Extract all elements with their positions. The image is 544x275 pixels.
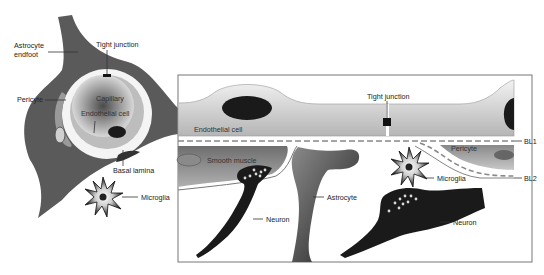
label-smooth-muscle: Smooth muscle — [207, 156, 257, 165]
label-tight-junction-left: Tight junction — [96, 40, 138, 49]
label-astrocyte-endfoot-2: endfoot — [14, 50, 38, 59]
label-tight-junction-right: Tight junction — [367, 92, 409, 101]
label-microglia-left: Microglia — [141, 193, 170, 202]
left-cross-section: Astrocyte endfoot Tight junction Pericyt… — [14, 15, 178, 218]
label-pericyte-right: Pericyte — [451, 144, 477, 153]
label-endothelial-right: Endothelial cell — [194, 125, 243, 134]
label-endothelial-left: Endothelial cell — [81, 109, 130, 118]
label-astrocyte-right: Astrocyte — [327, 193, 357, 202]
bbb-diagram: Astrocyte endfoot Tight junction Pericyt… — [0, 0, 544, 275]
microglia-left — [85, 177, 123, 217]
right-detail-panel: Tight junction Endothelial cell BL1 Smoo… — [177, 75, 537, 262]
label-basal-lamina: Basal lamina — [113, 166, 154, 175]
label-bl1: BL1 — [524, 137, 537, 146]
label-bl2: BL2 — [524, 174, 537, 183]
label-capillary: Capillary — [96, 94, 124, 103]
label-pericyte-left: Pericyte — [17, 95, 43, 104]
tight-junction-marker-right — [383, 118, 391, 126]
label-neuron-left: Neuron — [266, 215, 290, 224]
endothelial-nucleus — [108, 126, 126, 138]
smooth-muscle-nucleus — [177, 154, 201, 166]
pericyte-nucleus — [55, 127, 65, 143]
label-astrocyte-endfoot-1: Astrocyte — [14, 41, 44, 50]
endothelial-nucleus-right — [222, 96, 272, 120]
tight-junction-marker — [103, 74, 111, 77]
pericyte-right-nucleus — [494, 150, 514, 160]
label-neuron-right: Neuron — [453, 218, 477, 227]
capillary-lumen — [72, 75, 134, 137]
label-microglia-right: Microglia — [437, 174, 466, 183]
